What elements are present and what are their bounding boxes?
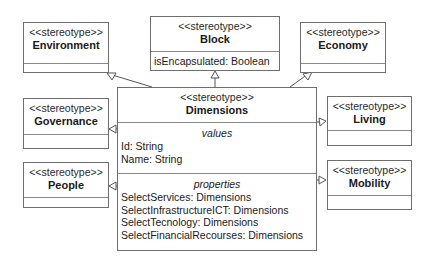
arrowhead-mobility [319, 176, 326, 184]
class-people[interactable]: <<stereotype>> People [23, 162, 109, 208]
value-id: Id: String [121, 140, 182, 153]
properties-section-title: properties [118, 178, 316, 190]
stereotype-label: <<stereotype>> [24, 166, 108, 178]
stereotype-label: <<stereotype>> [24, 102, 108, 114]
arrowhead-environment [107, 73, 116, 80]
compartment-divider [118, 122, 316, 123]
stereotype-label: <<stereotype>> [328, 164, 411, 176]
class-block[interactable]: <<stereotype>> Block isEncapsulated: Boo… [150, 16, 280, 71]
class-living[interactable]: <<stereotype>> Living [327, 96, 412, 146]
values-list: Id: String Name: String [121, 140, 182, 165]
class-name: Governance [24, 115, 108, 127]
property-select-services: SelectServices: Dimensions [121, 191, 303, 204]
class-name: People [24, 179, 108, 191]
compartment-divider [24, 63, 108, 64]
class-mobility[interactable]: <<stereotype>> Mobility [327, 160, 412, 210]
arrowhead-living [319, 118, 326, 126]
compartment-divider [328, 195, 411, 196]
property-select-infrastructure-ict: SelectInfrastructureICT: Dimensions [121, 204, 303, 217]
compartment-divider [24, 197, 108, 198]
property-select-financial-recourses: SelectFinancialRecourses: Dimensions [121, 229, 303, 242]
class-name: Block [151, 33, 279, 45]
stereotype-label: <<stereotype>> [24, 26, 108, 38]
compartment-divider [328, 130, 411, 131]
stereotype-label: <<stereotype>> [118, 91, 316, 103]
edge-dimensions-environment [109, 74, 152, 87]
stereotype-label: <<stereotype>> [328, 100, 411, 112]
class-environment[interactable]: <<stereotype>> Environment [23, 22, 109, 73]
value-name: Name: String [121, 153, 182, 166]
class-dimensions[interactable]: <<stereotype>> Dimensions values Id: Str… [117, 87, 317, 251]
arrowhead-people [109, 182, 116, 190]
class-governance[interactable]: <<stereotype>> Governance [23, 98, 109, 149]
arrowhead-economy [303, 72, 312, 80]
properties-list: SelectServices: Dimensions SelectInfrast… [121, 191, 303, 241]
class-name: Economy [301, 39, 385, 51]
stereotype-label: <<stereotype>> [301, 26, 385, 38]
compartment-divider [24, 134, 108, 135]
attribute-is-encapsulated: isEncapsulated: Boolean [154, 55, 270, 68]
arrowhead-block [211, 71, 219, 78]
class-name: Mobility [328, 177, 411, 189]
stereotype-label: <<stereotype>> [151, 20, 279, 32]
compartment-divider [151, 51, 279, 52]
class-name: Dimensions [118, 104, 316, 116]
compartment-divider [118, 173, 316, 174]
class-name: Environment [24, 39, 108, 51]
class-name: Living [328, 113, 411, 125]
property-select-tecnology: SelectTecnology: Dimensions [121, 216, 303, 229]
arrowhead-governance [109, 125, 116, 133]
compartment-divider [301, 63, 385, 64]
class-economy[interactable]: <<stereotype>> Economy [300, 22, 386, 73]
values-section-title: values [118, 127, 316, 139]
